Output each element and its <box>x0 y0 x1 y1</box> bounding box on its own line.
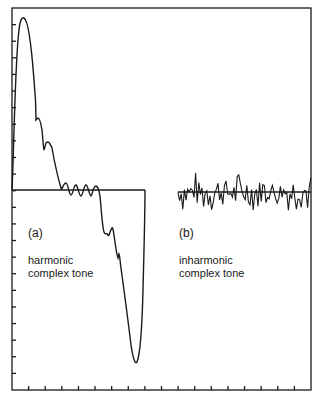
panel-b-caption-line2: complex tone <box>179 267 244 280</box>
panel-a-tag: (a) <box>28 227 43 240</box>
panel-a-caption-line2: complex tone <box>28 267 93 280</box>
figure-canvas <box>0 0 321 405</box>
panel-b-caption-line1: inharmonic <box>179 254 233 267</box>
panel-a-caption-line1: harmonic <box>28 254 73 267</box>
panel-b-tag: (b) <box>179 227 194 240</box>
